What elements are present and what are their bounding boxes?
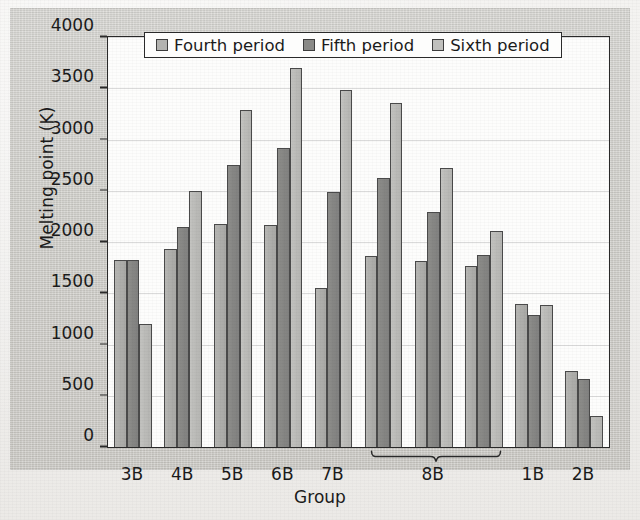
bar [277, 148, 290, 447]
y-axis-tick-label: 2500 [0, 169, 94, 189]
legend[interactable]: Fourth period Fifth period Sixth period [144, 32, 562, 58]
bar [590, 416, 603, 447]
x-axis-tick-label: 8B [421, 464, 443, 484]
y-axis-tick [100, 138, 107, 140]
y-axis-tick [100, 87, 107, 89]
bar [164, 249, 177, 447]
x-axis-tick-label: 6B [271, 464, 293, 484]
bar [540, 305, 553, 447]
bar [415, 261, 428, 447]
bar [528, 315, 541, 447]
legend-label: Fourth period [174, 36, 285, 55]
bar [490, 231, 503, 447]
y-axis-tick [100, 36, 107, 38]
legend-label: Sixth period [450, 36, 550, 55]
x-axis-title: Group [0, 487, 640, 507]
legend-swatch-icon [156, 39, 168, 51]
x-axis-tick-label: 3B [121, 464, 143, 484]
bar [365, 256, 378, 447]
figure: Melting point (K) Group 0500100015002000… [0, 0, 640, 520]
bar-series-container [108, 37, 609, 447]
bar [565, 371, 578, 447]
bar [139, 324, 152, 447]
y-axis-tick [100, 446, 107, 448]
legend-item-fifth-period[interactable]: Fifth period [303, 36, 414, 55]
group-8b-brace-icon [370, 450, 502, 463]
legend-item-fourth-period[interactable]: Fourth period [156, 36, 285, 55]
x-axis-tick-label: 7B [321, 464, 343, 484]
x-axis-tick-label: 4B [171, 464, 193, 484]
y-axis-tick [100, 343, 107, 345]
bar [214, 224, 227, 447]
x-axis-tick-label: 1B [522, 464, 544, 484]
bar [515, 304, 528, 448]
y-axis-tick-label: 500 [0, 374, 94, 394]
legend-swatch-icon [303, 39, 315, 51]
y-axis-tick [100, 189, 107, 191]
bar [578, 379, 591, 447]
legend-swatch-icon [432, 39, 444, 51]
bar [390, 103, 403, 447]
y-axis-tick-label: 3500 [0, 66, 94, 86]
bar [315, 288, 328, 447]
bar [114, 260, 127, 447]
bar [340, 90, 353, 447]
bar [427, 212, 440, 447]
y-axis-tick-label: 4000 [0, 15, 94, 35]
bar [264, 225, 277, 447]
x-axis-tick-label: 2B [572, 464, 594, 484]
bar [227, 165, 240, 447]
y-axis-tick [100, 394, 107, 396]
bar [177, 227, 190, 447]
y-axis-tick [100, 292, 107, 294]
bar [465, 266, 478, 447]
y-axis-tick [100, 241, 107, 243]
y-axis-tick-label: 1500 [0, 271, 94, 291]
bar [477, 255, 490, 447]
legend-label: Fifth period [321, 36, 414, 55]
bar [327, 192, 340, 447]
y-axis-tick-label: 0 [0, 425, 94, 445]
y-axis-tick-label: 1000 [0, 323, 94, 343]
x-axis-tick-label: 5B [221, 464, 243, 484]
legend-item-sixth-period[interactable]: Sixth period [432, 36, 550, 55]
bar [377, 178, 390, 447]
bar [240, 110, 253, 447]
y-axis-tick-label: 3000 [0, 118, 94, 138]
plot-area [107, 36, 610, 448]
y-axis-tick-label: 2000 [0, 220, 94, 240]
bar [290, 68, 303, 447]
bar [440, 168, 453, 447]
bar [127, 260, 140, 447]
bar [189, 191, 202, 447]
